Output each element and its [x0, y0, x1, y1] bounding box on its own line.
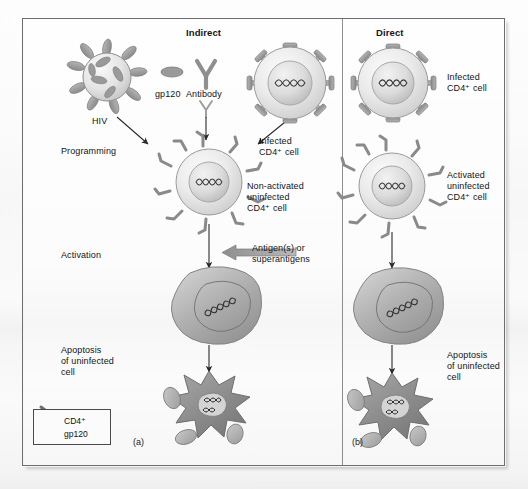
- panel-a-id: (a): [133, 437, 144, 447]
- legend-box: CD4⁺ gp120: [33, 409, 111, 445]
- label-infected-cell-a: Infected CD4⁺ cell: [259, 136, 299, 158]
- panel-divider: [342, 19, 343, 465]
- label-apoptosis-a: Apoptosis of uninfected cell: [61, 345, 114, 378]
- legend-gp120-label: gp120: [64, 429, 88, 439]
- label-antigens: Antigen(s) or superantigens: [252, 243, 310, 265]
- legend-cd4-label: CD4⁺: [64, 416, 86, 426]
- label-hiv: HIV: [92, 116, 107, 127]
- label-activation: Activation: [61, 250, 101, 261]
- figure-frame: [22, 18, 505, 466]
- label-programming: Programming: [61, 146, 116, 157]
- label-nonactivated-cell: Non-activated uninfected CD4⁺ cell: [247, 181, 304, 214]
- label-apoptosis-b: Apoptosis of uninfected cell: [447, 350, 500, 383]
- panel-a-heading: Indirect: [186, 27, 221, 38]
- panel-b-id: (b): [352, 437, 363, 447]
- label-infected-cell-b: Infected CD4⁺ cell: [447, 72, 487, 94]
- label-activated-cell-b: Activated uninfected CD4⁺ cell: [447, 170, 490, 203]
- label-antibody: Antibody: [186, 89, 222, 100]
- label-gp120: gp120: [155, 89, 181, 100]
- panel-b-heading: Direct: [376, 27, 404, 38]
